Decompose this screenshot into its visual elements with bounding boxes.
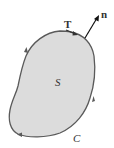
normal-vector-n: [85, 18, 97, 38]
region-s: [9, 31, 95, 137]
diagram-canvas: T n S C: [0, 0, 114, 148]
normal-label: n: [101, 8, 107, 20]
curve-label: C: [73, 132, 81, 144]
curve-direction-arrow-left: [24, 47, 28, 53]
region-label: S: [55, 76, 61, 88]
tangent-label: T: [64, 18, 72, 30]
normal-arrowhead-icon: [94, 15, 99, 22]
curve-direction-arrow-right: [92, 96, 95, 102]
